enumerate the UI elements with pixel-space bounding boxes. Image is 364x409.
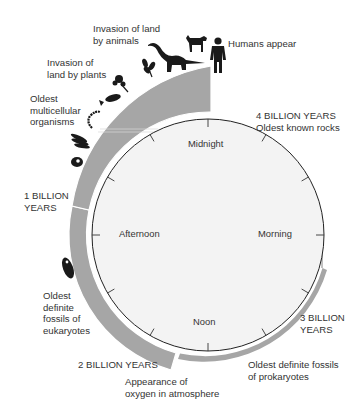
dinosaur-icon — [148, 43, 205, 72]
label-2-billion-years: 2 BILLION YEARS — [78, 359, 158, 371]
human-icon — [210, 37, 226, 73]
plant-icon — [113, 75, 129, 92]
label-eukaryotes: Oldest definite fossils of eukaryotes — [43, 290, 90, 336]
label-morning: Morning — [258, 228, 292, 239]
fern-icon — [141, 58, 156, 77]
label-3-billion-years: 3 BILLION YEARS — [300, 312, 345, 335]
dog-icon — [186, 35, 207, 52]
eukaryote-fossil-icon — [60, 255, 76, 281]
label-oldest-rocks: Oldest known rocks — [256, 122, 340, 134]
label-midnight: Midnight — [188, 138, 223, 149]
label-afternoon: Afternoon — [119, 228, 160, 239]
label-noon: Noon — [193, 316, 215, 327]
multicellular-algae-icon — [70, 132, 90, 149]
label-prokaryotes: Oldest definite fossils of prokaryotes — [248, 359, 339, 382]
geologic-clock-diagram: Midnight Morning Noon Afternoon 4 BILLIO… — [0, 0, 364, 409]
label-animals: Invasion of land by animals — [93, 23, 160, 46]
label-plants: Invasion of land by plants — [47, 57, 106, 80]
worm-icon — [88, 112, 100, 129]
label-oxygen: Appearance of oxygen in atmosphere — [125, 376, 219, 399]
label-multicellular: Oldest multicellular organisms — [30, 93, 81, 128]
label-humans: Humans appear — [228, 38, 296, 50]
fish-icon — [99, 93, 122, 106]
label-1-billion-years: 1 BILLION YEARS — [24, 190, 69, 213]
label-4-billion-years: 4 BILLION YEARS — [256, 110, 336, 122]
